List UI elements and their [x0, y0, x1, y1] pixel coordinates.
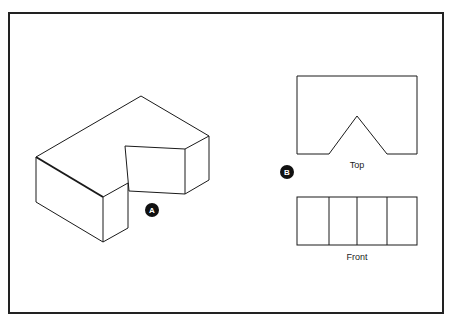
isometric-left-face	[36, 157, 103, 242]
isometric-notch-back-wall	[129, 149, 185, 194]
isometric-front-edge	[36, 157, 103, 197]
isometric-top-face	[36, 96, 209, 157]
front-view-label: Front	[346, 252, 368, 262]
top-view-label: Top	[350, 160, 365, 170]
figure-frame	[9, 13, 443, 313]
badge-b-label: B	[284, 168, 290, 177]
front-view	[297, 197, 417, 245]
technical-drawing-figure: A Top B Front	[0, 0, 453, 324]
badge-b: B	[280, 165, 294, 179]
isometric-right-face	[103, 183, 128, 242]
isometric-edge	[103, 183, 128, 197]
badge-a: A	[145, 203, 159, 217]
isometric-right-block-face	[185, 136, 209, 194]
isometric-object	[36, 96, 209, 242]
badge-a-label: A	[149, 206, 155, 215]
top-view	[297, 76, 417, 154]
top-view-outline	[297, 76, 417, 154]
